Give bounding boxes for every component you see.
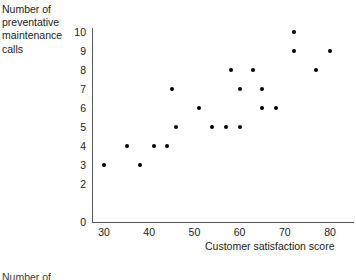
data-point	[165, 144, 169, 148]
data-point	[251, 68, 255, 72]
data-point	[260, 106, 264, 110]
data-point	[238, 87, 242, 91]
data-point	[174, 125, 178, 129]
x-tick-label: 40	[136, 227, 162, 238]
data-point	[274, 106, 278, 110]
data-point	[102, 163, 106, 167]
data-point	[170, 87, 174, 91]
data-point	[229, 68, 233, 72]
data-point	[292, 30, 296, 34]
data-point	[138, 163, 142, 167]
scatter-chart-figure: Number of preventative maintenance calls…	[0, 0, 356, 280]
data-point	[238, 125, 242, 129]
y-tick-label: 7	[64, 84, 86, 95]
data-point	[197, 106, 201, 110]
bottom-text-fragment: Number of	[2, 272, 51, 280]
y-tick-label: 8	[64, 65, 86, 76]
data-point	[328, 49, 332, 53]
data-point	[260, 87, 264, 91]
y-tick-label: 2	[64, 179, 86, 190]
data-point	[152, 144, 156, 148]
data-point	[125, 144, 129, 148]
plot-area	[92, 28, 354, 222]
x-tick-label: 60	[227, 227, 253, 238]
y-tick-label: 4	[64, 141, 86, 152]
y-tick-label: 3	[64, 160, 86, 171]
x-axis-line	[92, 222, 354, 223]
data-point	[224, 125, 228, 129]
y-tick-label: 10	[64, 27, 86, 38]
data-point	[314, 68, 318, 72]
y-tick-label: 6	[64, 103, 86, 114]
data-point	[292, 49, 296, 53]
y-tick-label: 0	[64, 217, 86, 228]
x-tick-label: 50	[181, 227, 207, 238]
x-tick-label: 70	[272, 227, 298, 238]
y-tick-label: 5	[64, 122, 86, 133]
x-tick-label: 30	[91, 227, 117, 238]
data-point	[210, 125, 214, 129]
x-axis-label: Customer satisfaction score	[205, 240, 335, 252]
y-tick-label: 9	[64, 46, 86, 57]
x-tick-label: 80	[317, 227, 343, 238]
